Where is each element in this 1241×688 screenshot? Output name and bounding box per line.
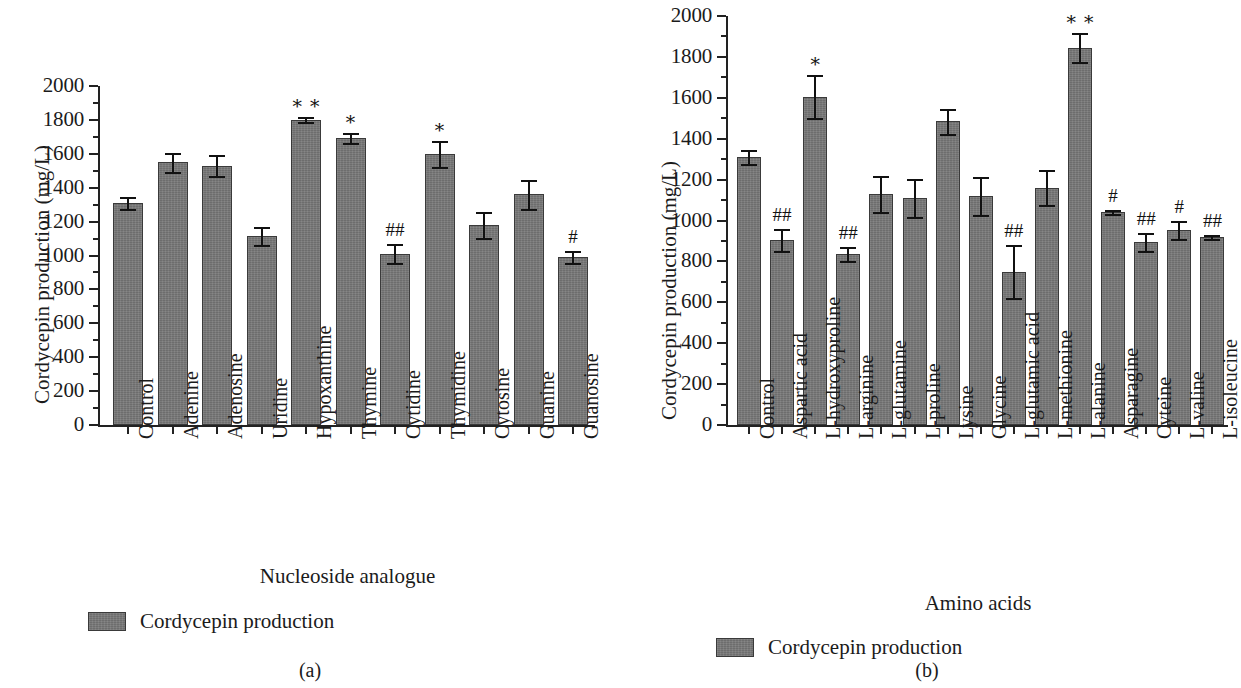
panel-a: ∗ ∗∗##∗# Cordycepin production (mg/L) Nu…: [0, 0, 620, 688]
x-tick: [880, 425, 882, 434]
y-tick-1600: [717, 97, 726, 99]
error-bar-cap: [120, 209, 136, 211]
x-tick-label-l-glutamic-acid: L-glutamic acid: [1022, 312, 1042, 439]
error-bar: [814, 75, 816, 118]
y-minor-tick: [721, 117, 726, 119]
y-minor-tick: [93, 305, 98, 307]
error-bar-cap: [565, 263, 581, 265]
error-bar: [261, 227, 263, 246]
error-bar: [1013, 245, 1015, 298]
x-tick: [1145, 425, 1147, 434]
x-axis-title-a: Nucleoside analogue: [100, 566, 595, 587]
legend-label-cordycepin: Cordycepin production: [140, 611, 334, 632]
error-bar: [914, 179, 916, 218]
y-tick-label-0: 0: [22, 414, 84, 435]
error-bar-cap: [940, 134, 956, 136]
y-minor-tick: [721, 199, 726, 201]
x-tick-label-control: Control: [136, 378, 156, 439]
y-minor-tick: [721, 158, 726, 160]
y-minor-tick: [93, 271, 98, 273]
error-bar-cap: [774, 229, 790, 231]
y-tick-label-1800: 1800: [650, 46, 712, 67]
error-bar-cap: [1039, 205, 1055, 207]
y-minor-tick: [93, 373, 98, 375]
y-minor-tick: [93, 238, 98, 240]
error-bar-cap: [298, 117, 314, 119]
error-bar-cap: [774, 251, 790, 253]
x-tick: [1211, 425, 1213, 434]
significance-marker: ##: [756, 205, 808, 224]
x-tick-label-control: Control: [757, 378, 777, 439]
y-tick-label-1200: 1200: [22, 211, 84, 232]
error-bar-cap: [873, 212, 889, 214]
error-bar-cap: [840, 247, 856, 249]
error-bar: [947, 109, 949, 134]
x-tick: [980, 425, 982, 434]
error-bar-cap: [1072, 33, 1088, 35]
error-bar-cap: [807, 75, 823, 77]
y-tick-label-800: 800: [22, 278, 84, 299]
x-tick: [847, 425, 849, 434]
significance-marker: ##: [1186, 211, 1238, 230]
error-bar: [1178, 221, 1180, 239]
x-tick: [914, 425, 916, 434]
significance-marker: ##: [988, 221, 1040, 240]
error-bar: [1079, 33, 1081, 62]
x-tick-label-l-alanine: L-alanine: [1088, 362, 1108, 439]
significance-marker: ##: [369, 220, 421, 239]
error-bar-cap: [1006, 245, 1022, 247]
error-bar-cap: [254, 227, 270, 229]
y-minor-tick: [721, 281, 726, 283]
error-bar-cap: [209, 155, 225, 157]
y-tick-label-1000: 1000: [22, 245, 84, 266]
error-bar: [748, 150, 750, 164]
y-tick-1200: [89, 221, 98, 223]
error-bar-cap: [1006, 298, 1022, 300]
error-bar-cap: [1171, 221, 1187, 223]
error-bar-cap: [1039, 170, 1055, 172]
y-tick-2000: [717, 15, 726, 17]
x-tick: [394, 425, 396, 434]
error-bar-cap: [873, 176, 889, 178]
error-bar-cap: [1138, 251, 1154, 253]
significance-marker: ##: [822, 223, 874, 242]
y-tick-label-400: 400: [22, 346, 84, 367]
y-tick-label-1000: 1000: [650, 210, 712, 231]
y-minor-tick: [93, 170, 98, 172]
error-bar-cap: [1204, 239, 1220, 241]
x-tick: [350, 425, 352, 434]
x-tick: [439, 425, 441, 434]
x-tick-label-uridine: Uridine: [270, 378, 290, 439]
significance-marker: ∗: [325, 109, 377, 128]
x-tick: [781, 425, 783, 434]
y-tick-label-600: 600: [650, 291, 712, 312]
x-tick-label-cyteine: Cyteine: [1154, 377, 1174, 439]
significance-marker: ∗: [414, 117, 466, 136]
x-tick-label-l-proline: L-proline: [923, 363, 943, 439]
x-tick-label-thymine: Thymine: [359, 367, 379, 439]
x-tick-label-asparagine: Asparagine: [1121, 348, 1141, 439]
y-tick-label-200: 200: [650, 373, 712, 394]
error-bar-cap: [343, 143, 359, 145]
y-tick-label-2000: 2000: [650, 5, 712, 26]
error-bar-cap: [1105, 210, 1121, 212]
error-bar: [847, 247, 849, 261]
y-axis-b: [726, 16, 728, 427]
x-tick: [483, 425, 485, 434]
x-tick-label-cytosine: Cytosine: [492, 368, 512, 439]
x-tick: [305, 425, 307, 434]
x-tick-label-lysine: Lysine: [956, 386, 976, 439]
y-minor-tick: [93, 102, 98, 104]
y-tick-label-1600: 1600: [650, 87, 712, 108]
error-bar-cap: [1171, 239, 1187, 241]
x-tick: [216, 425, 218, 434]
error-bar-cap: [387, 263, 403, 265]
x-tick: [1112, 425, 1114, 434]
error-bar-cap: [840, 261, 856, 263]
y-tick-label-400: 400: [650, 332, 712, 353]
error-bar-cap: [1072, 62, 1088, 64]
y-minor-tick: [93, 136, 98, 138]
x-tick-label-adenosine: Adenosine: [225, 353, 245, 439]
x-axis-title-b: Amino acids: [728, 593, 1228, 614]
